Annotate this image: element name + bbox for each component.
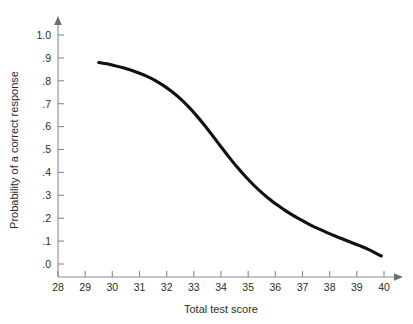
x-tick-label-31: 31 [134, 281, 146, 293]
x-tick-label-32: 32 [161, 281, 173, 293]
x-tick-label-29: 29 [79, 281, 91, 293]
x-tick-label-36: 36 [269, 281, 281, 293]
x-tick-label-35: 35 [242, 281, 254, 293]
y-tick-label-0.3: .3 [42, 189, 51, 201]
x-axis-title: Total test score [184, 303, 258, 315]
y-tick-label-0.4: .4 [42, 166, 51, 178]
x-tick-label-30: 30 [106, 281, 118, 293]
y-tick-label-1.0: 1.0 [36, 29, 51, 41]
y-tick-label-0.6: .6 [42, 120, 51, 132]
y-tick-label-0.1: .1 [42, 235, 51, 247]
x-tick-label-28: 28 [52, 281, 64, 293]
y-tick-label-0.9: .9 [42, 52, 51, 64]
y-axis-title: Probability of a correct response [8, 71, 20, 229]
y-tick-label-0.2: .2 [42, 212, 51, 224]
x-tick-label-39: 39 [351, 281, 363, 293]
x-tick-label-40: 40 [378, 281, 390, 293]
chart-background [0, 0, 413, 324]
x-tick-label-34: 34 [215, 281, 227, 293]
x-tick-label-37: 37 [297, 281, 309, 293]
y-tick-label-0.5: .5 [42, 143, 51, 155]
x-tick-label-38: 38 [324, 281, 336, 293]
chart-figure: 1.0 .9 .8 .7 .6 .5 .4 .3 .2 .1 .0 28 29 … [0, 0, 413, 324]
x-tick-label-33: 33 [188, 281, 200, 293]
y-tick-label-0.0: .0 [42, 258, 51, 270]
y-tick-label-0.8: .8 [42, 75, 51, 87]
y-tick-label-0.7: .7 [42, 98, 51, 110]
